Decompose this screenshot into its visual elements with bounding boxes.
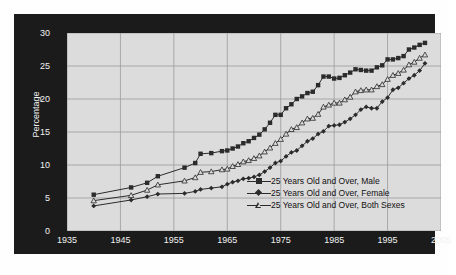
legend-item-male: 25 Years Old and Over, Male (247, 176, 422, 187)
x-tick-1935: 1935 (47, 236, 87, 245)
x-tick-1955: 1955 (154, 236, 194, 245)
x-tick-1945: 1945 (100, 236, 140, 245)
legend-item-both-sexes: 25 Years Old and Over, Both Sexes (247, 200, 422, 211)
x-tick-2005: 2005 (421, 236, 456, 245)
legend-label-both-sexes: 25 Years Old and Over, Both Sexes (271, 201, 405, 210)
x-tick-1965: 1965 (207, 236, 247, 245)
filled-diamond-icon (247, 188, 271, 199)
open-triangle-icon (247, 200, 271, 211)
x-tick-1995: 1995 (368, 236, 408, 245)
legend-label-male: 25 Years Old and Over, Male (271, 177, 380, 186)
x-tick-1985: 1985 (314, 236, 354, 245)
legend-item-female: 25 Years Old and Over, Female (247, 188, 422, 199)
x-tick-1975: 1975 (261, 236, 301, 245)
filled-square-icon (247, 176, 271, 187)
legend-label-female: 25 Years Old and Over, Female (271, 189, 390, 198)
chart-legend: 25 Years Old and Over, Male 25 Years Old… (247, 176, 422, 212)
x-axis-tick-labels: 19351945195519651975198519952005 (14, 14, 435, 254)
